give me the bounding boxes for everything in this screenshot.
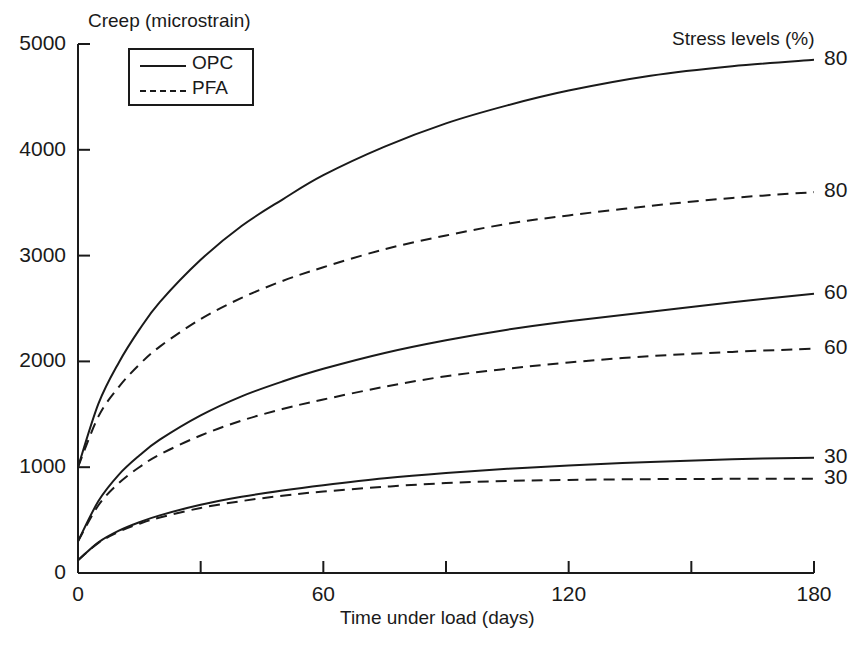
legend: OPC PFA	[128, 48, 254, 106]
legend-swatch-dashed-icon	[140, 90, 186, 92]
creep-chart-figure: Creep (microstrain) Time under load (day…	[0, 0, 856, 651]
y-tick-label: 3000	[6, 243, 66, 267]
series-end-label: 60	[824, 280, 847, 304]
legend-swatch-solid-icon	[140, 65, 186, 67]
x-tick-label: 120	[539, 582, 599, 606]
y-tick-label: 4000	[6, 137, 66, 161]
x-tick-label: 0	[48, 582, 108, 606]
stress-levels-title: Stress levels (%)	[672, 28, 815, 50]
series-end-label: 80	[824, 178, 847, 202]
series-line-pfa-80	[78, 192, 814, 467]
series-line-opc-80	[78, 60, 814, 467]
series-line-opc-60	[78, 294, 814, 542]
x-tick-label: 60	[293, 582, 353, 606]
data-series-group	[78, 60, 814, 560]
y-tick-label: 2000	[6, 348, 66, 372]
y-tick-label: 1000	[6, 454, 66, 478]
legend-label-opc: OPC	[192, 52, 233, 74]
series-end-label: 80	[824, 46, 847, 70]
series-end-label: 30	[824, 465, 847, 489]
x-axis-title: Time under load (days)	[340, 607, 535, 629]
x-tick-label: 180	[784, 582, 844, 606]
y-tick-label: 0	[6, 560, 66, 584]
legend-label-pfa: PFA	[192, 77, 228, 99]
y-tick-label: 5000	[6, 31, 66, 55]
y-axis-title: Creep (microstrain)	[88, 10, 251, 32]
series-line-pfa-60	[78, 349, 814, 542]
series-line-opc-30	[78, 458, 814, 561]
legend-item-pfa: PFA	[130, 79, 256, 105]
x-axis-ticks	[78, 561, 814, 573]
y-axis-ticks	[78, 44, 90, 573]
series-line-pfa-30	[78, 479, 814, 561]
series-end-label: 60	[824, 335, 847, 359]
